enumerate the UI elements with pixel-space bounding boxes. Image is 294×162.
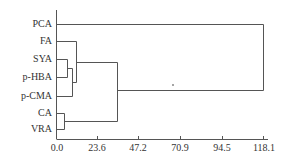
leaf-label-ca: CA <box>0 108 52 118</box>
x-tick-label: 118.1 <box>244 143 284 153</box>
leaf-label-p-cma: p-CMA <box>0 91 52 101</box>
x-tick-label: 47.2 <box>118 143 158 153</box>
leaf-label-vra: VRA <box>0 124 52 134</box>
x-tick-label: 70.9 <box>160 143 200 153</box>
leaf-label-pca: PCA <box>0 19 52 29</box>
x-tick-label: 23.6 <box>77 143 117 153</box>
leaf-label-fa: FA <box>0 36 52 46</box>
x-tick-label: 94.5 <box>202 143 242 153</box>
leaf-label-p-hba: p-HBA <box>0 72 52 82</box>
dendrogram-chart: PCA FA SYA p-HBA p-CMA CA VRA 0.0 23.6 4… <box>0 0 294 162</box>
x-tick-label: 0.0 <box>37 143 77 153</box>
leaf-label-sya: SYA <box>0 54 52 64</box>
